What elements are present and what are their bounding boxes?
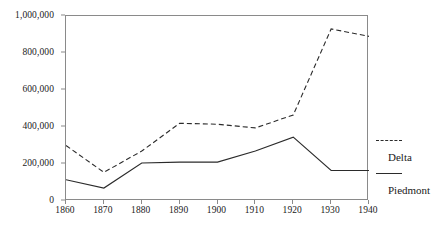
x-axis-tick-mark xyxy=(141,200,142,204)
series-line-delta xyxy=(66,29,369,172)
legend-label: Piedmont xyxy=(388,184,430,196)
line-chart: 0200,000400,000600,000800,0001,000,000 1… xyxy=(0,0,446,235)
x-axis-tick-label: 1930 xyxy=(320,205,339,215)
legend-swatch-solid-line-icon xyxy=(376,173,402,176)
legend-swatch-dashed-line-icon xyxy=(376,140,402,143)
x-axis-tick-mark xyxy=(65,200,66,204)
y-axis-tick-label: 200,000 xyxy=(22,158,54,168)
x-axis-tick-label: 1910 xyxy=(245,205,264,215)
x-axis-tick-mark xyxy=(103,200,104,204)
x-axis-tick-mark xyxy=(254,200,255,204)
x-axis-tick-label: 1860 xyxy=(55,205,74,215)
y-axis-tick-label: 600,000 xyxy=(22,84,54,94)
series-line-piedmont xyxy=(66,137,369,188)
y-axis-tick-label: 1,000,000 xyxy=(15,10,54,20)
y-axis-tick-label: 400,000 xyxy=(22,121,54,131)
x-axis-tick-label: 1900 xyxy=(207,205,226,215)
x-axis-tick-label: 1870 xyxy=(93,205,112,215)
x-axis-tick-mark xyxy=(179,200,180,204)
series-lines xyxy=(66,16,369,201)
plot-area xyxy=(65,15,368,200)
y-axis-tick-label: 800,000 xyxy=(22,47,54,57)
x-axis-tick-mark xyxy=(368,200,369,204)
legend: DeltaPiedmont xyxy=(376,140,446,220)
legend-label: Delta xyxy=(388,151,412,163)
x-axis-tick-mark xyxy=(217,200,218,204)
x-axis-tick-mark xyxy=(292,200,293,204)
x-axis-tick-label: 1920 xyxy=(283,205,302,215)
x-axis-tick-mark xyxy=(330,200,331,204)
x-axis-tick-label: 1940 xyxy=(358,205,377,215)
x-axis-tick-label: 1880 xyxy=(131,205,150,215)
x-axis-tick-label: 1890 xyxy=(169,205,188,215)
